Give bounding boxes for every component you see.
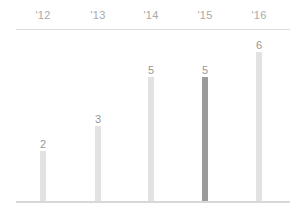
bar-1 [95,126,101,201]
axis-baseline [16,201,290,203]
value-label-2: 5 [136,64,166,76]
bar-3 [202,77,208,201]
value-label-4: 6 [244,39,274,51]
category-label-2: '14 [131,9,171,22]
value-label-1: 3 [83,113,113,125]
category-label-1: '13 [78,9,118,22]
bar-0 [40,151,46,201]
bar-chart: '12 '13 '14 '15 '16 2 3 5 5 6 [0,0,303,218]
value-label-0: 2 [28,138,58,150]
bar-2 [148,77,154,201]
category-label-4: '16 [239,9,279,22]
bar-4 [256,52,262,201]
category-label-0: '12 [23,9,63,22]
value-label-3: 5 [190,64,220,76]
top-rule [16,29,290,30]
category-label-3: '15 [185,9,225,22]
